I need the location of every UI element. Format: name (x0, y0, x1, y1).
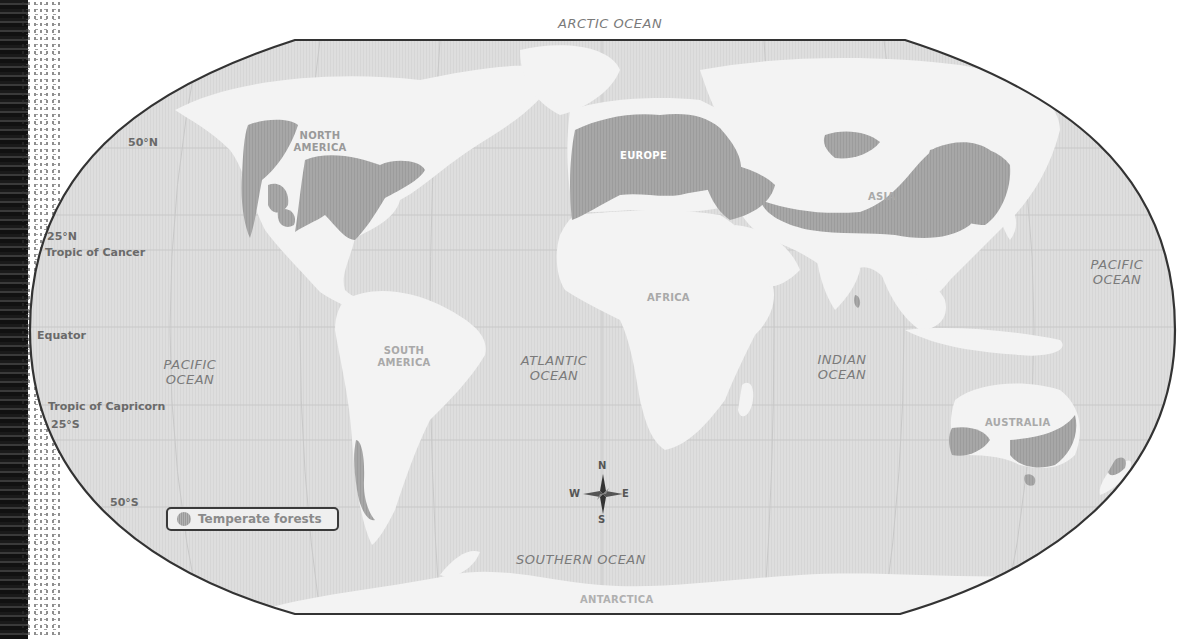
label-pacific-ocean-east-line2: OCEAN (1082, 272, 1152, 287)
label-africa: AFRICA (647, 292, 690, 304)
legend-label-temperate-forests: Temperate forests (198, 512, 322, 526)
label-lat-50n: 50°N (128, 137, 158, 148)
label-pacific-ocean-west: PACIFIC OCEAN (150, 357, 230, 387)
label-europe: EUROPE (620, 150, 667, 162)
compass-n: N (598, 460, 606, 471)
compass-star-icon (581, 472, 625, 516)
label-australia: AUSTRALIA (985, 417, 1051, 429)
legend-swatch-temperate-forests (177, 512, 191, 526)
compass-w: W (569, 488, 580, 499)
label-asia: ASIA (868, 191, 896, 203)
label-lat-25s: 25°S (51, 419, 80, 430)
label-north-america-line2: AMERICA (290, 142, 350, 154)
label-lat-25n: 25°N (47, 231, 77, 242)
label-lat-50s: 50°S (110, 497, 139, 508)
label-atlantic-ocean-line2: OCEAN (512, 368, 596, 383)
label-indian-ocean-line1: INDIAN (808, 352, 876, 367)
label-south-america-line2: AMERICA (373, 357, 435, 369)
label-south-america: SOUTH AMERICA (373, 345, 435, 369)
label-tropic-of-capricorn: Tropic of Capricorn (48, 401, 165, 412)
label-atlantic-ocean: ATLANTIC OCEAN (512, 353, 596, 383)
label-pacific-ocean-east: PACIFIC OCEAN (1082, 257, 1152, 287)
label-south-america-line1: SOUTH (373, 345, 435, 357)
label-pacific-ocean-west-line1: PACIFIC (150, 357, 230, 372)
label-tropic-of-cancer: Tropic of Cancer (45, 247, 145, 258)
label-antarctica: ANTARCTICA (580, 594, 654, 606)
world-map (0, 0, 1194, 639)
legend: Temperate forests (166, 507, 339, 531)
label-indian-ocean-line2: OCEAN (808, 367, 876, 382)
label-pacific-ocean-west-line2: OCEAN (150, 372, 230, 387)
compass-rose: N W E S (588, 460, 632, 520)
label-arctic-ocean: ARCTIC OCEAN (558, 16, 662, 31)
label-north-america: NORTH AMERICA (290, 130, 350, 154)
label-pacific-ocean-east-line1: PACIFIC (1082, 257, 1152, 272)
label-atlantic-ocean-line1: ATLANTIC (512, 353, 596, 368)
label-north-america-line1: NORTH (290, 130, 350, 142)
label-southern-ocean: SOUTHERN OCEAN (516, 552, 646, 567)
label-equator: Equator (37, 330, 86, 341)
label-indian-ocean: INDIAN OCEAN (808, 352, 876, 382)
